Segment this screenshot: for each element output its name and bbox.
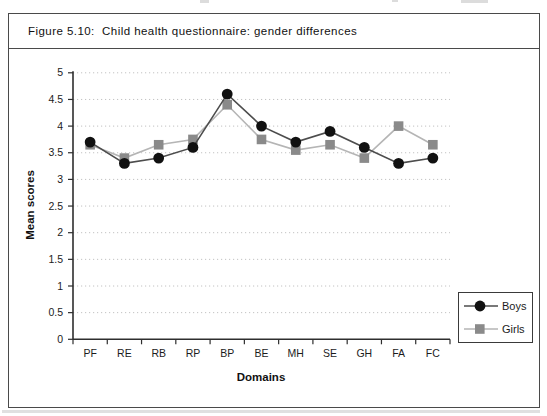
- boys-marker: [119, 158, 130, 169]
- boys-marker: [325, 126, 336, 137]
- x-category-label: GH: [356, 347, 372, 359]
- y-tick-label: 5: [57, 66, 63, 78]
- boys-marker: [393, 158, 404, 169]
- girls-marker: [360, 153, 370, 163]
- boys-marker: [85, 137, 96, 148]
- x-category-label: RP: [186, 347, 201, 359]
- x-category-label: RB: [151, 347, 166, 359]
- chart-plot-area: 00.511.522.533.544.55PFRERBRPBPBEMHSEGHF…: [0, 0, 547, 416]
- girls-marker: [428, 140, 438, 150]
- x-category-label: FA: [392, 347, 405, 359]
- boys-marker: [188, 142, 199, 153]
- y-tick-label: 1: [57, 280, 63, 292]
- y-tick-label: 1.5: [48, 253, 63, 265]
- x-axis-title: Domains: [237, 371, 286, 383]
- gridlines: [73, 73, 450, 313]
- series-boys: [85, 89, 439, 169]
- boys-marker: [256, 121, 267, 132]
- legend-label-boys: Boys: [502, 300, 526, 312]
- girls-marker: [257, 135, 267, 145]
- boys-marker: [222, 89, 233, 100]
- boys-marker: [290, 137, 301, 148]
- y-tick-label: 4: [57, 120, 63, 132]
- boys-marker-icon: [464, 299, 498, 313]
- x-category-labels: PFRERBRPBPBEMHSEGHFAFC: [83, 347, 440, 359]
- figure-page: Figure 5.10: Child health questionnaire:…: [0, 0, 547, 416]
- x-category-label: SE: [323, 347, 337, 359]
- y-tick-label: 2.5: [48, 200, 63, 212]
- girls-marker: [325, 140, 335, 150]
- legend-entry-boys: Boys: [464, 296, 532, 317]
- y-tick-label: 3: [57, 173, 63, 185]
- axes: [68, 71, 450, 344]
- x-category-label: MH: [288, 347, 304, 359]
- y-tick-label: 3.5: [48, 146, 63, 158]
- y-axis-title: Mean scores: [24, 170, 36, 240]
- x-category-label: PF: [83, 347, 96, 359]
- legend-entry-girls: Girls: [464, 319, 532, 340]
- girls-marker-icon: [464, 322, 498, 336]
- boys-marker: [359, 142, 370, 153]
- x-category-label: RE: [117, 347, 132, 359]
- girls-marker: [222, 100, 232, 110]
- chart-legend: Boys Girls: [458, 292, 533, 343]
- x-category-label: BP: [220, 347, 234, 359]
- y-tick-label: 2: [57, 226, 63, 238]
- page-crop-artifact: [2, 410, 540, 413]
- boys-marker: [153, 153, 164, 164]
- girls-marker: [154, 140, 164, 150]
- girls-marker: [394, 121, 404, 131]
- boys-marker: [427, 153, 438, 164]
- y-tick-label: 0.5: [48, 306, 63, 318]
- y-tick-label: 0: [57, 333, 63, 345]
- y-tick-label: 4.5: [48, 93, 63, 105]
- x-category-label: FC: [426, 347, 440, 359]
- y-tick-labels: 00.511.522.533.544.55: [48, 66, 63, 345]
- x-category-label: BE: [254, 347, 268, 359]
- legend-label-girls: Girls: [502, 323, 525, 335]
